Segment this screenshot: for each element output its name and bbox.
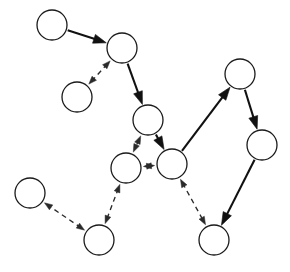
arrowhead-icon [93,34,107,43]
edge-e-f [143,163,154,169]
arrowhead-icon [105,215,111,224]
graph-node-f[interactable] [157,149,187,179]
graph-node-a[interactable] [37,10,67,40]
edge-line [48,205,81,227]
edge-line [107,189,119,220]
node-layer [15,10,277,255]
graph-node-h[interactable] [247,130,277,160]
arrowhead-icon [114,184,120,193]
edge-f-g [182,87,230,151]
graph-node-g[interactable] [225,59,255,89]
graph-node-d[interactable] [133,105,163,135]
edge-line [182,93,226,151]
edge-a-b [68,30,107,43]
graph-node-c[interactable] [62,82,92,112]
arrowhead-icon [154,136,164,150]
arrowhead-icon [133,144,139,153]
arrowhead-icon [249,115,258,129]
edge-j-i [44,203,84,230]
edge-e-j [105,184,120,223]
arrowhead-icon [180,179,186,187]
edge-d-f [154,134,164,149]
arrowhead-icon [221,212,231,226]
edge-h-k [221,160,254,226]
arrowhead-icon [76,223,84,230]
arrowhead-icon [219,87,231,100]
edge-b-c [89,61,110,84]
arrowhead-icon [89,76,97,84]
arrowhead-icon [135,136,141,145]
edge-f-k [180,179,205,224]
arrowhead-icon [44,203,52,210]
edge-d-e [133,136,140,152]
graph-node-j[interactable] [84,225,114,255]
edge-b-d [128,64,143,105]
graph-node-k[interactable] [199,225,229,255]
graph-diagram [0,0,290,272]
edge-line [183,183,204,221]
arrowhead-icon [199,216,205,224]
graph-node-i[interactable] [15,178,45,208]
edge-g-h [245,90,258,129]
arrowhead-icon [134,91,143,105]
graph-node-b[interactable] [107,33,137,63]
edge-line [225,160,255,219]
graph-node-e[interactable] [111,153,141,183]
